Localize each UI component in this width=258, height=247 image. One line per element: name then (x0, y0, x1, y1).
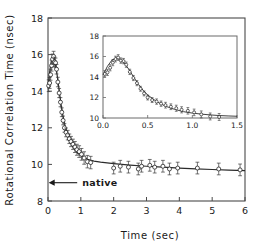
main-data-point (118, 164, 122, 168)
inset-data-point (143, 92, 146, 95)
main-ytick-label: 14 (31, 86, 43, 97)
main-annotation-arrowhead (49, 180, 55, 186)
main-data-point (82, 156, 86, 160)
main-data-point (238, 168, 242, 172)
main-xtick-label: 1 (78, 205, 84, 216)
inset-data-point (169, 105, 172, 108)
main-data-point (49, 73, 53, 77)
rotational-correlation-time-chart: 012345681012141618native 0.00.51.01.5101… (0, 0, 258, 247)
inset-data-point (186, 109, 189, 112)
main-data-point (60, 110, 64, 114)
main-xtick-label: 6 (242, 205, 248, 216)
inset-ytick-label: 16 (89, 52, 99, 61)
inset-xtick-label: 1.5 (231, 121, 243, 130)
main-data-point (161, 164, 165, 168)
main-xtick-label: 5 (209, 205, 215, 216)
inset-data-point (132, 77, 135, 80)
main-xtick-label: 3 (143, 205, 149, 216)
inset-data-point (200, 113, 203, 116)
inset-ytick-label: 12 (89, 93, 99, 102)
main-data-point (153, 165, 157, 169)
main-data-point (56, 80, 60, 84)
inset-data-point (180, 108, 183, 111)
main-xtick-label: 4 (176, 205, 182, 216)
y-axis-title: Rotational Correlation Time (nsec) (4, 14, 15, 205)
inset-data-point (160, 102, 163, 105)
main-xtick-label: 2 (111, 205, 117, 216)
main-ytick-label: 10 (31, 159, 43, 170)
inset-data-point (175, 107, 178, 110)
main-data-point (112, 166, 116, 170)
inset-data-point (193, 111, 196, 114)
main-ytick-label: 8 (37, 196, 43, 207)
main-data-point (57, 91, 61, 95)
inset-data-point (164, 104, 167, 107)
main-data-point (48, 81, 52, 85)
main-data-point (176, 166, 180, 170)
main-data-point (126, 165, 130, 169)
inset-data-point (151, 99, 154, 102)
main-data-point (79, 152, 83, 156)
inset-data-point (218, 115, 221, 118)
inset-ytick-label: 14 (89, 73, 99, 82)
inset-data-point (106, 71, 109, 74)
inset-data-point (122, 60, 125, 63)
main-data-point (61, 118, 65, 122)
inset-axes: 0.00.51.01.51012141618 (89, 32, 243, 130)
main-data-point (89, 161, 93, 165)
inset-xtick-label: 1.0 (186, 121, 198, 130)
inset-ytick-label: 18 (89, 32, 99, 41)
main-ytick-label: 16 (31, 49, 43, 60)
inset-data-point (109, 66, 112, 69)
main-data-point (58, 100, 62, 104)
main-data-point (217, 167, 221, 171)
inset-data-point (117, 56, 120, 59)
inset-data-point (135, 82, 138, 85)
inset-data-point (155, 100, 158, 103)
main-data-point (55, 67, 59, 71)
x-axis-title: Time (sec) (120, 230, 179, 241)
inset-data-point (146, 96, 149, 99)
main-ytick-label: 12 (31, 122, 43, 133)
figure-container: 012345681012141618native 0.00.51.01.5101… (0, 0, 258, 247)
inset-data-point (139, 87, 142, 90)
main-annotation-label: native (82, 177, 117, 188)
inset-xtick-label: 0.5 (142, 121, 154, 130)
main-data-point (195, 166, 199, 170)
inset-data-point (125, 63, 128, 66)
main-ytick-label: 18 (31, 13, 43, 24)
inset-data-point (128, 70, 131, 73)
main-data-point (167, 167, 171, 171)
inset-data-point (209, 115, 212, 118)
main-xtick-label: 0 (45, 205, 51, 216)
inset-data-point (111, 61, 114, 64)
main-data-point (148, 163, 152, 167)
inset-ytick-label: 10 (89, 114, 99, 123)
main-data-point (140, 164, 144, 168)
